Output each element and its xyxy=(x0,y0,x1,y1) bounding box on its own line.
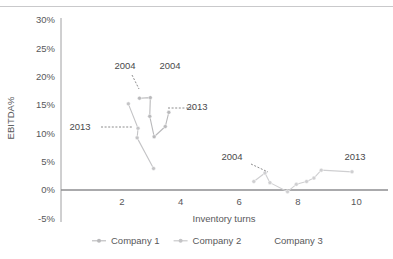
series-2 xyxy=(126,102,155,171)
data-point xyxy=(252,180,256,184)
x-tick-label: 2 xyxy=(119,196,124,207)
data-point xyxy=(286,190,290,194)
y-axis-title: EBITDA% xyxy=(5,96,16,139)
ann-2004-company1: 2004 xyxy=(114,60,135,71)
data-point xyxy=(294,182,298,186)
y-tick-label: 15% xyxy=(36,99,56,110)
x-tick-label: 10 xyxy=(351,196,362,207)
ann-2004-company3: 2004 xyxy=(221,151,242,162)
x-axis-title: Inventory turns xyxy=(193,213,256,224)
data-point xyxy=(137,96,141,100)
x-tick-label: 6 xyxy=(237,196,242,207)
x-tick-label: 8 xyxy=(295,196,300,207)
y-tick-label: -5% xyxy=(38,213,55,224)
chart-legend: Company 1Company 2Company 3 xyxy=(92,235,323,246)
legend-marker-dot xyxy=(179,239,183,243)
legend-marker-dot xyxy=(97,239,101,243)
series-line xyxy=(139,98,168,137)
ann-2013-company1: 2013 xyxy=(186,101,207,112)
y-tick-label: 30% xyxy=(36,14,56,25)
data-point xyxy=(148,96,152,100)
x-tick-label: 4 xyxy=(178,196,183,207)
data-point xyxy=(305,180,309,184)
y-axis-ticks: -5%0%5%10%15%20%25%30% xyxy=(36,14,56,223)
leader-line-2004-company1 xyxy=(132,75,139,89)
y-tick-label: 25% xyxy=(36,43,56,54)
legend-item-2[interactable]: Company 2 xyxy=(193,235,242,246)
series-1 xyxy=(137,96,170,139)
chart-figure: -5%0%5%10%15%20%25%30% 246810 2004200420… xyxy=(0,0,393,259)
ann-2013-company3: 2013 xyxy=(344,151,365,162)
data-point xyxy=(148,114,152,118)
data-point xyxy=(350,170,354,174)
data-point xyxy=(263,171,267,175)
leader-line-2004-company3 xyxy=(251,164,268,172)
y-tick-label: 0% xyxy=(41,184,55,195)
data-point xyxy=(167,110,171,114)
data-point xyxy=(319,168,323,172)
data-point xyxy=(152,166,156,170)
data-point xyxy=(126,102,130,106)
ann-2004-extra: 2004 xyxy=(159,60,180,71)
data-point xyxy=(312,176,316,180)
ann-2013-company2: 2013 xyxy=(69,121,90,132)
y-tick-label: 5% xyxy=(41,156,55,167)
y-tick-label: 10% xyxy=(36,128,56,139)
data-point xyxy=(152,135,156,139)
legend-item-1[interactable]: Company 1 xyxy=(111,235,160,246)
data-point xyxy=(268,181,272,185)
legend-item-3[interactable]: Company 3 xyxy=(274,235,323,246)
annotation-labels: 200420042013201320042013 xyxy=(69,60,365,162)
annotation-leader-lines xyxy=(101,75,268,172)
data-series-group xyxy=(126,96,354,194)
data-point xyxy=(163,125,167,129)
y-tick-label: 20% xyxy=(36,71,56,82)
data-point xyxy=(136,126,140,130)
chart-canvas: -5%0%5%10%15%20%25%30% 246810 2004200420… xyxy=(0,0,393,259)
x-axis-ticks: 246810 xyxy=(119,196,361,207)
data-point xyxy=(135,136,139,140)
